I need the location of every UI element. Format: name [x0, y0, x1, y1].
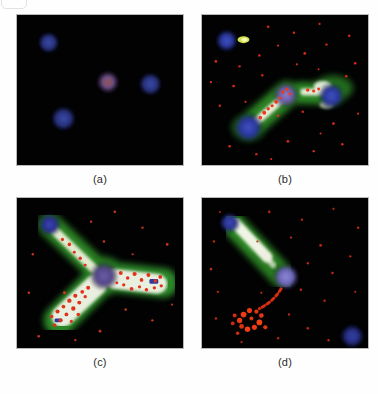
panel-d: (d): [201, 197, 369, 368]
micrograph-c-canvas: [17, 198, 183, 348]
panel-caption-d: (d): [201, 356, 369, 368]
figure-root: (a): [0, 0, 378, 394]
panel-grid: (a): [0, 0, 378, 394]
micrograph-d[interactable]: [201, 197, 369, 349]
micrograph-c[interactable]: [16, 197, 184, 349]
micrograph-a-canvas: [17, 15, 183, 165]
panel-c: (c): [16, 197, 184, 368]
green-spot-b: [238, 36, 250, 43]
panel-caption-a: (a): [16, 173, 184, 185]
micrograph-d-canvas: [202, 198, 368, 348]
micrograph-b-canvas: [202, 15, 368, 165]
panel-b: (b): [201, 14, 369, 185]
micrograph-a[interactable]: [16, 14, 184, 166]
panel-a: (a): [16, 14, 184, 185]
micrograph-b[interactable]: [201, 14, 369, 166]
panel-caption-c: (c): [16, 356, 184, 368]
panel-caption-b: (b): [201, 173, 369, 185]
